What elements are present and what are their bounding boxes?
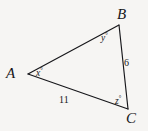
vertex-label-b: B	[117, 7, 126, 22]
triangle-side-ac	[28, 74, 128, 109]
side-length-bc: 6	[124, 58, 129, 68]
vertex-label-c: C	[126, 111, 136, 126]
degree-symbol-x: °	[40, 66, 43, 73]
side-length-ac: 11	[59, 95, 69, 105]
degree-symbol-y: °	[105, 31, 108, 38]
angle-label-x: x°	[36, 67, 43, 79]
geometry-figure: A B C x° y° z° 6 11	[0, 0, 148, 131]
vertex-label-a: A	[6, 66, 15, 81]
degree-symbol-z: °	[119, 94, 122, 101]
angle-label-z: z°	[115, 95, 121, 107]
angle-label-y: y°	[101, 32, 108, 44]
